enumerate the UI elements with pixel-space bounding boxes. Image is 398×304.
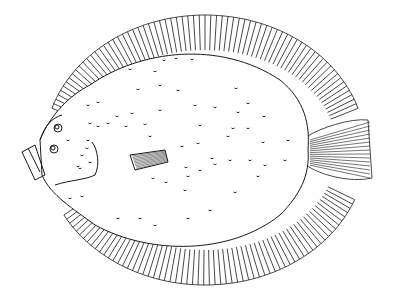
fish-body	[40, 54, 308, 246]
flounder-illustration	[0, 0, 398, 304]
